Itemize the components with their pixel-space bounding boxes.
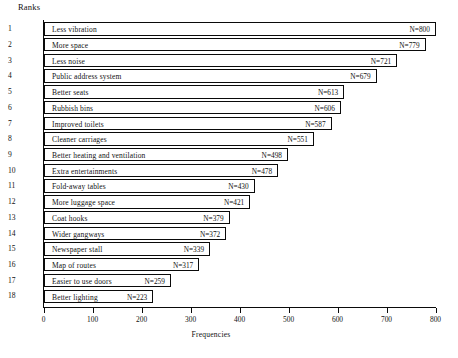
rank-label: 7 xyxy=(8,116,34,132)
bar-value-label: N=606 xyxy=(315,102,335,115)
bar-category-label: Cleaner carriages xyxy=(52,133,107,146)
bar-chart: Ranks 1Less vibrationN=8002More spaceN=7… xyxy=(0,0,458,358)
x-axis-tick-label: 200 xyxy=(136,315,147,324)
bar: Better lightingN=223 xyxy=(44,290,153,303)
x-axis-tick-label: 500 xyxy=(283,315,294,324)
bar-category-label: Rubbish bins xyxy=(52,102,93,115)
bar: Improved toiletsN=587 xyxy=(44,117,332,130)
x-axis-tick-label: 800 xyxy=(430,315,441,324)
rank-label: 11 xyxy=(8,178,34,194)
chart-row: 8Cleaner carriagesN=551 xyxy=(0,131,458,147)
bar: Map of routesN=317 xyxy=(44,258,199,271)
bar-value-label: N=679 xyxy=(350,70,370,83)
bar-value-label: N=800 xyxy=(410,23,430,36)
rank-label: 10 xyxy=(8,163,34,179)
chart-row: 1Less vibrationN=800 xyxy=(0,21,458,37)
bar-category-label: Less vibration xyxy=(52,23,97,36)
bar: Extra entertainmentsN=478 xyxy=(44,164,278,177)
bar-value-label: N=779 xyxy=(399,39,419,52)
bar-value-label: N=317 xyxy=(173,259,193,272)
chart-row: 14Wider gangwaysN=372 xyxy=(0,226,458,242)
bar-category-label: Improved toilets xyxy=(52,118,104,131)
bar-category-label: Easier to use doors xyxy=(52,275,112,288)
chart-row: 15Newspaper stallN=339 xyxy=(0,241,458,257)
bar-category-label: Newspaper stall xyxy=(52,243,102,256)
x-axis-tick xyxy=(142,308,143,313)
x-axis-tick xyxy=(44,308,45,313)
chart-row: 10Extra entertainmentsN=478 xyxy=(0,163,458,179)
bar-category-label: Better lighting xyxy=(52,291,98,304)
bar: Wider gangwaysN=372 xyxy=(44,227,226,240)
rank-label: 2 xyxy=(8,37,34,53)
bar-category-label: Public address system xyxy=(52,70,121,83)
bar: Less noiseN=721 xyxy=(44,54,397,67)
bar: Better heating and ventilationN=498 xyxy=(44,148,288,161)
bar: Cleaner carriagesN=551 xyxy=(44,132,314,145)
rank-label: 9 xyxy=(8,147,34,163)
bar: Newspaper stallN=339 xyxy=(44,242,210,255)
x-axis-tick xyxy=(93,308,94,313)
x-axis-tick xyxy=(240,308,241,313)
bar-value-label: N=721 xyxy=(371,55,391,68)
bar-value-label: N=372 xyxy=(200,228,220,241)
x-axis-tick-label: 300 xyxy=(185,315,196,324)
rank-label: 3 xyxy=(8,53,34,69)
bar-value-label: N=478 xyxy=(252,165,272,178)
x-axis-tick-label: 0 xyxy=(42,315,46,324)
rank-label: 6 xyxy=(8,100,34,116)
bar-category-label: More space xyxy=(52,39,88,52)
bar-value-label: N=379 xyxy=(203,212,223,225)
rank-label: 17 xyxy=(8,273,34,289)
bar-value-label: N=259 xyxy=(145,275,165,288)
bar: Fold-away tablesN=430 xyxy=(44,179,255,192)
rank-label: 8 xyxy=(8,131,34,147)
bar: Public address systemN=679 xyxy=(44,69,377,82)
bar: More luggage spaceN=421 xyxy=(44,195,250,208)
rank-label: 13 xyxy=(8,210,34,226)
x-axis-tick xyxy=(191,308,192,313)
x-axis-tick-label: 400 xyxy=(234,315,245,324)
rank-label: 5 xyxy=(8,84,34,100)
bar-category-label: More luggage space xyxy=(52,196,115,209)
bar: Less vibrationN=800 xyxy=(44,22,436,35)
x-axis-tick-label: 700 xyxy=(381,315,392,324)
x-axis-tick xyxy=(436,308,437,313)
chart-row: 18Better lightingN=223 xyxy=(0,288,458,304)
rank-label: 18 xyxy=(8,288,34,304)
chart-row: 4Public address systemN=679 xyxy=(0,68,458,84)
bar-value-label: N=587 xyxy=(305,118,325,131)
chart-row: 9Better heating and ventilationN=498 xyxy=(0,147,458,163)
rank-label: 14 xyxy=(8,226,34,242)
chart-row: 11Fold-away tablesN=430 xyxy=(0,178,458,194)
plot-area: 1Less vibrationN=8002More spaceN=7793Les… xyxy=(0,0,458,358)
bar-value-label: N=551 xyxy=(288,133,308,146)
x-axis-tick xyxy=(387,308,388,313)
x-axis-tick-label: 600 xyxy=(332,315,343,324)
bar-category-label: Less noise xyxy=(52,55,85,68)
bar-category-label: Extra entertainments xyxy=(52,165,117,178)
chart-row: 6Rubbish binsN=606 xyxy=(0,100,458,116)
bar-value-label: N=339 xyxy=(184,243,204,256)
rank-label: 12 xyxy=(8,194,34,210)
bar: Coat hooksN=379 xyxy=(44,211,230,224)
bar-category-label: Fold-away tables xyxy=(52,180,106,193)
bar: More spaceN=779 xyxy=(44,38,426,51)
chart-row: 3Less noiseN=721 xyxy=(0,53,458,69)
bar: Better seatsN=613 xyxy=(44,85,344,98)
bar-category-label: Wider gangways xyxy=(52,228,104,241)
rank-label: 4 xyxy=(8,68,34,84)
bar-value-label: N=498 xyxy=(262,149,282,162)
chart-row: 13Coat hooksN=379 xyxy=(0,210,458,226)
bar-value-label: N=430 xyxy=(228,180,248,193)
rank-label: 16 xyxy=(8,257,34,273)
rank-label: 1 xyxy=(8,21,34,37)
bar-value-label: N=421 xyxy=(224,196,244,209)
chart-row: 7Improved toiletsN=587 xyxy=(0,116,458,132)
chart-row: 17Easier to use doorsN=259 xyxy=(0,273,458,289)
x-axis-tick xyxy=(289,308,290,313)
bar-category-label: Coat hooks xyxy=(52,212,87,225)
bar: Easier to use doorsN=259 xyxy=(44,274,171,287)
bar-category-label: Better heating and ventilation xyxy=(52,149,145,162)
x-axis-tick xyxy=(338,308,339,313)
chart-row: 2More spaceN=779 xyxy=(0,37,458,53)
